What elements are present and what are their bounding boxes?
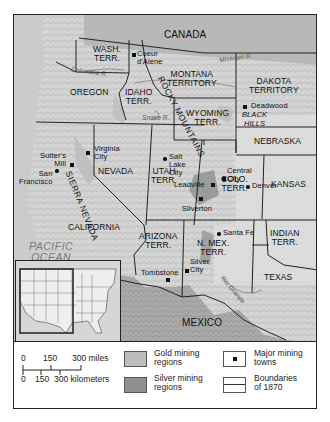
city-marker <box>55 169 59 173</box>
label-dakota: DAKOTA TERRITORY <box>249 77 299 95</box>
mining-town-marker <box>222 177 226 181</box>
city-marker <box>163 157 167 161</box>
scale-miles-300: 300 miles <box>72 354 108 363</box>
inset-us-map <box>15 260 121 342</box>
mining-town-marker <box>70 163 74 167</box>
town-deadwood: Deadwood <box>251 102 288 110</box>
legend-silver-label: Silver mining regions <box>154 374 203 392</box>
town-coeur-dalene: Coeur d'Alene <box>137 50 163 66</box>
label-wyoming: WYOMING TERR. <box>186 109 229 127</box>
silver-region-swatch <box>124 377 147 393</box>
scale-km-0: 0 <box>21 375 26 384</box>
town-santa-fe: Santa Fe <box>223 229 254 237</box>
mining-town-swatch <box>223 351 246 367</box>
town-salt-lake-city: Salt Lake City <box>169 153 186 177</box>
scale-km-150: 150 <box>35 375 49 384</box>
label-oregon: OREGON <box>70 88 108 97</box>
label-nebraska: NEBRASKA <box>254 137 301 146</box>
label-new-mexico: N. MEX. TERR. <box>197 239 229 257</box>
label-snake-river: Snake R. <box>142 113 170 122</box>
mining-town-marker <box>185 269 189 273</box>
town-central-city: Central City <box>227 167 252 183</box>
label-black-hills: BLACK HILLS <box>242 110 267 128</box>
boundary-swatch <box>223 377 246 393</box>
label-texas: TEXAS <box>264 273 292 282</box>
label-canada: CANADA <box>164 29 206 40</box>
mining-town-marker <box>86 151 90 155</box>
label-nevada: NEVADA <box>98 167 133 176</box>
town-denver: Denver <box>252 182 277 190</box>
label-washington: WASH. TERR. <box>87 45 127 63</box>
mining-town-marker <box>199 197 203 201</box>
legend-towns-label: Major mining towns <box>254 349 303 367</box>
city-marker <box>217 232 221 236</box>
label-mexico: MEXICO <box>182 317 222 328</box>
label-indian-territory: INDIAN TERR. <box>270 229 299 247</box>
legend-boundaries-label: Boundaries of 1870 <box>254 374 297 392</box>
town-silverton: Silverton <box>182 205 212 213</box>
mining-town-marker <box>132 53 136 57</box>
mining-town-marker <box>211 183 215 187</box>
mining-town-marker <box>166 278 170 282</box>
town-silver-city: Silver City <box>190 258 209 274</box>
legend-gold-label: Gold mining regions <box>154 349 199 367</box>
city-marker <box>246 185 250 189</box>
label-montana: MONTANA TERRITORY <box>167 70 217 88</box>
scale-miles-150: 150 <box>43 354 57 363</box>
town-leadville: Leadville <box>174 181 205 189</box>
mining-town-marker <box>243 105 247 109</box>
legend: 0 150 300 miles 0 150 300 kilometers Gol… <box>13 342 317 409</box>
boundary-line-icon <box>224 384 245 385</box>
scale-km-300: 300 kilometers <box>54 375 109 384</box>
town-sutters-mill: Sutter's Mill <box>40 152 66 168</box>
town-virginia-city: Virginia City <box>94 145 120 161</box>
map: CANADA WASH. TERR. OREGON IDAHO TERR. MO… <box>13 14 317 342</box>
scale-miles-0: 0 <box>21 354 26 363</box>
mining-town-icon <box>233 357 237 361</box>
inset-map-svg <box>16 261 121 342</box>
label-arizona: ARIZONA TERR. <box>139 232 177 250</box>
gold-region-swatch <box>124 351 147 367</box>
town-tombstone: Tombstone <box>141 269 179 277</box>
label-idaho: IDAHO TERR. <box>125 88 152 106</box>
town-san-francisco: San Francisco <box>19 170 52 186</box>
